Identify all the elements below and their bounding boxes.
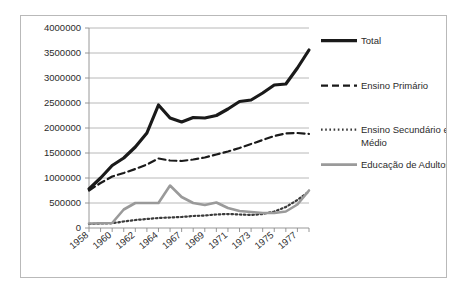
x-axis-tick-label: 1964 bbox=[136, 229, 159, 251]
y-axis-tick-label: 1000000 bbox=[44, 172, 81, 183]
x-axis-tick-label: 1960 bbox=[90, 229, 113, 251]
y-axis-tick-label: 2000000 bbox=[44, 122, 81, 133]
legend-item: Ensino Secundário e bbox=[321, 124, 446, 135]
legend-item: Ensino Primário bbox=[321, 80, 428, 91]
x-axis-tick-label: 1969 bbox=[183, 229, 206, 251]
legend-item: Médio bbox=[361, 137, 387, 148]
series-line-educa-o-de-adultos bbox=[89, 186, 309, 224]
legend-label: Total bbox=[361, 35, 381, 46]
x-axis-tick-label: 1971 bbox=[206, 229, 229, 251]
chart-frame: 0500000100000015000002000000250000030000… bbox=[20, 15, 447, 278]
x-axis-tick-label: 1958 bbox=[67, 229, 90, 251]
x-axis-tick-label: 1977 bbox=[275, 229, 298, 251]
legend-label: Ensino Primário bbox=[361, 80, 428, 91]
series-line-ensino-secund-rio-e-m-dio bbox=[89, 192, 309, 225]
x-axis-tick-label: 1967 bbox=[160, 229, 183, 251]
line-chart: 0500000100000015000002000000250000030000… bbox=[21, 16, 446, 277]
series-line-ensino-prim-rio bbox=[89, 133, 309, 191]
y-axis-tick-label: 2500000 bbox=[44, 97, 81, 108]
y-axis-tick-label: 3500000 bbox=[44, 47, 81, 58]
x-axis-tick-label: 1962 bbox=[113, 229, 136, 251]
legend-item: Educação de Adultos bbox=[321, 159, 446, 170]
legend-label: Ensino Secundário e bbox=[361, 124, 446, 135]
y-axis-tick-label: 3000000 bbox=[44, 72, 81, 83]
x-axis-tick-label: 1973 bbox=[229, 229, 252, 251]
x-axis-tick-label: 1975 bbox=[252, 229, 275, 251]
y-axis-tick-label: 1500000 bbox=[44, 147, 81, 158]
legend-item: Total bbox=[321, 35, 381, 46]
legend-label: Educação de Adultos bbox=[361, 159, 446, 170]
series-line-total bbox=[89, 50, 309, 189]
legend-label: Médio bbox=[361, 137, 387, 148]
y-axis-tick-label: 500000 bbox=[49, 197, 81, 208]
y-axis-tick-label: 4000000 bbox=[44, 22, 81, 33]
